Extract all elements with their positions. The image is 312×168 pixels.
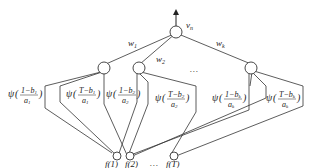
hidden-node-2 (133, 62, 145, 74)
svg-text:(: ( (273, 92, 277, 104)
svg-text:a1: a1 (82, 96, 89, 105)
weight-label-2: w2 (156, 54, 165, 65)
svg-text:): ) (38, 88, 43, 100)
svg-text:): ) (96, 88, 101, 100)
svg-text:ψ: ψ (212, 92, 219, 103)
svg-text:(: ( (162, 92, 166, 104)
svg-text:): ) (296, 92, 301, 104)
wavelet-network-diagram: vn w1 w2 wk … ψ ( 1−b1 a1 ) ψ ( T−b1 a1 … (0, 0, 312, 168)
svg-text:a2: a2 (171, 100, 178, 109)
activation-label-1: ψ ( 1−b1 a1 ) (8, 86, 43, 105)
svg-text:(: ( (219, 92, 223, 104)
weight-label-1: w1 (128, 38, 137, 49)
svg-text:ak: ak (282, 100, 289, 109)
svg-text:(: ( (73, 88, 77, 100)
svg-text:(: ( (113, 88, 117, 100)
activation-paths (45, 71, 303, 157)
input-label-1: f(1) (105, 159, 118, 168)
svg-text:ψ: ψ (66, 88, 73, 99)
svg-text:ψ: ψ (8, 88, 15, 99)
hidden-node-k (245, 62, 257, 74)
svg-text:a2: a2 (122, 96, 129, 105)
svg-text:(: ( (15, 88, 19, 100)
activation-label-3: ψ ( 1−b2 a2 ) (106, 86, 141, 105)
svg-text:ak: ak (228, 100, 235, 109)
svg-text:1−b2: 1−b2 (119, 86, 135, 95)
input-ellipsis: … (150, 158, 158, 168)
output-node (170, 26, 182, 38)
weight-label-k: wk (216, 38, 225, 49)
activation-label-2: ψ ( T−b1 a1 ) (66, 86, 101, 105)
activation-label-5: ψ ( 1−bk ak ) (212, 90, 247, 109)
svg-text:ψ: ψ (266, 92, 273, 103)
hidden-ellipsis: … (190, 64, 198, 74)
svg-text:T−b1: T−b1 (79, 86, 95, 95)
svg-text:T−bk: T−bk (279, 90, 296, 99)
input-label-2: f(2) (125, 159, 138, 168)
activation-label-6: ψ ( T−bk ak ) (266, 90, 301, 109)
svg-text:): ) (242, 92, 247, 104)
svg-text:ψ: ψ (155, 92, 162, 103)
svg-text:a1: a1 (24, 96, 31, 105)
svg-text:1−bk: 1−bk (225, 90, 241, 99)
svg-text:1−b1: 1−b1 (21, 86, 37, 95)
output-label: vn (186, 20, 193, 31)
svg-text:): ) (185, 92, 190, 104)
svg-text:): ) (136, 88, 141, 100)
svg-text:ψ: ψ (106, 88, 113, 99)
input-label-T: f(T) (166, 159, 180, 168)
hidden-node-1 (98, 62, 110, 74)
activation-label-4: ψ ( T−b2 a2 ) (155, 90, 190, 109)
svg-text:T−b2: T−b2 (168, 90, 185, 99)
